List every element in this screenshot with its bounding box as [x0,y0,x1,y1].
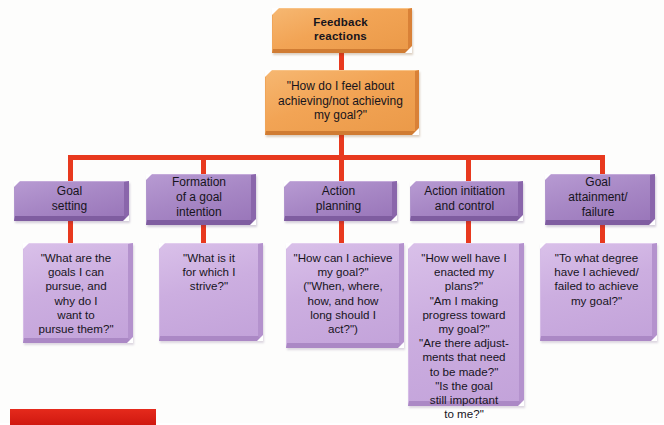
connector-horizontal-bus [68,155,605,160]
feedback-reactions-label: Feedback reactions [273,15,408,43]
stage-detail-goal-attainment: "To what degree have I achieved/ failed … [540,243,657,341]
stage-header-action-planning-label: Action planning [285,184,392,214]
stage-detail-goal-setting: "What are the goals I can pursue, and wh… [23,243,133,343]
feedback-reactions-box: Feedback reactions [272,8,412,53]
caption-bar-label [10,409,156,411]
stage-detail-goal-intention-label: "What is it for which I strive?" [160,244,258,294]
connector-title-to-question [339,52,344,70]
stage-detail-action-initiation-label: "How well have I enacted my plans?" "Am … [409,244,519,421]
feedback-question-label: "How do I feel about achieving/not achie… [266,79,415,123]
feedback-question-box: "How do I feel about achieving/not achie… [265,70,419,135]
stage-header-goal-attainment: Goal attainment/ failure [545,174,655,225]
stage-header-goal-intention: Formation of a goal intention [146,174,256,225]
stage-header-action-initiation: Action initiation and control [410,181,523,221]
connector-column-5-header-to-detail [600,225,605,243]
stage-detail-action-initiation: "How well have I enacted my plans?" "Am … [408,243,524,406]
stage-header-goal-setting-label: Goal setting [15,184,124,214]
connector-drop-column-4 [466,155,471,183]
stage-detail-action-planning-label: "How can I achieve my goal?" ("When, whe… [287,244,399,336]
connector-column-1-header-to-detail [68,221,73,243]
connector-drop-column-1 [68,155,73,183]
connector-column-4-header-to-detail [466,221,471,243]
stage-header-goal-attainment-label: Goal attainment/ failure [546,175,650,220]
stage-header-goal-intention-label: Formation of a goal intention [147,175,251,220]
stage-detail-action-planning: "How can I achieve my goal?" ("When, whe… [286,243,404,348]
connector-drop-column-3 [339,155,344,183]
stage-header-action-initiation-label: Action initiation and control [411,184,518,214]
stage-detail-goal-attainment-label: "To what degree have I achieved/ failed … [541,244,652,308]
caption-bar [10,409,156,425]
stage-header-action-planning: Action planning [284,181,397,221]
stage-detail-goal-intention: "What is it for which I strive?" [159,243,263,341]
stage-header-goal-setting: Goal setting [14,181,129,221]
stage-detail-goal-setting-label: "What are the goals I can pursue, and wh… [24,244,128,336]
connector-column-2-header-to-detail [201,225,206,243]
connector-column-3-header-to-detail [339,221,344,243]
